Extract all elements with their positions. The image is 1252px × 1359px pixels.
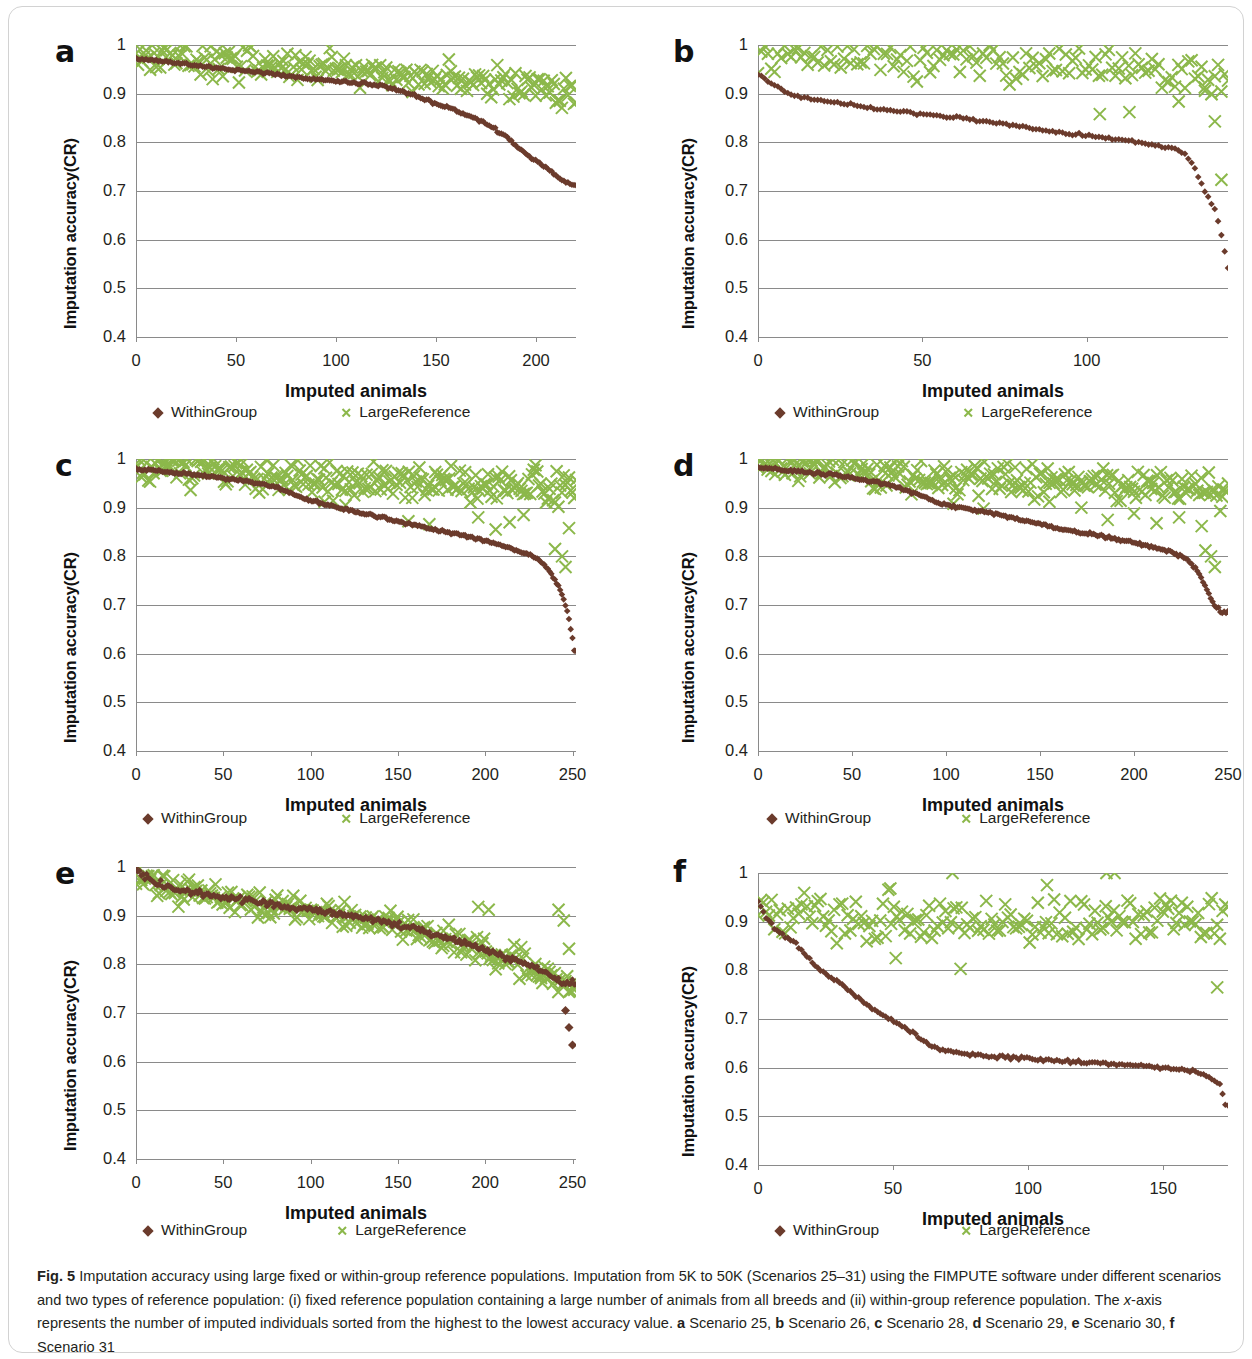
caption-panel-scenario-f: Scenario 31 [37,1339,115,1355]
y-tick-label: 0.7 [696,181,748,200]
y-tick-label: 0.6 [74,644,126,663]
panel-grid: aImputation accuracy(CR)0.40.50.60.70.80… [23,15,1245,1260]
legend-label-largereference: LargeReference [981,403,1092,421]
legend-item-withingroup: WithinGroup [765,809,871,827]
y-tick-label: 0.9 [696,84,748,103]
scatter-plot-canvas-c [136,459,576,757]
y-tick-label: 0.9 [696,912,748,931]
scatter-plot-canvas-f [758,873,1228,1171]
x-axis-label: Imputed animals [758,381,1228,402]
x-tick-label: 50 [863,1179,923,1198]
y-tick-label: 0.4 [74,1149,126,1168]
y-tick-label: 0.9 [74,906,126,925]
diamond-marker-icon [141,811,156,826]
x-tick-label: 150 [368,1173,428,1192]
caption-panel-scenario-c: Scenario 28, [882,1315,972,1331]
caption-panel-scenario-e: Scenario 30, [1080,1315,1170,1331]
y-tick-label: 1 [696,35,748,54]
legend: WithinGroupLargeReference [23,1221,625,1239]
caption-panel-ref-a: a [677,1315,685,1331]
x-tick-label: 50 [193,1173,253,1192]
caption-panel-ref-b: b [775,1315,784,1331]
legend-item-withingroup: WithinGroup [151,403,257,421]
legend: WithinGroupLargeReference [625,809,1245,827]
x-tick-label: 50 [193,765,253,784]
legend-item-largereference: LargeReference [959,809,1090,827]
diamond-marker-icon [141,1223,156,1238]
y-tick-label: 0.8 [74,954,126,973]
x-tick-label: 200 [506,351,566,370]
x-tick-label: 200 [455,1173,515,1192]
caption-body: Imputation accuracy using large fixed or… [37,1268,1221,1308]
x-tick-label: 0 [106,351,166,370]
x-tick-label: 100 [1057,351,1117,370]
y-tick-label: 1 [74,857,126,876]
x-tick-label: 250 [543,765,603,784]
legend-item-largereference: LargeReference [335,1221,466,1239]
legend-label-largereference: LargeReference [359,403,470,421]
legend: WithinGroupLargeReference [23,809,625,827]
y-tick-label: 0.7 [74,1003,126,1022]
y-tick-label: 0.4 [74,741,126,760]
legend: WithinGroupLargeReference [625,1221,1245,1239]
y-tick-label: 0.4 [74,327,126,346]
y-tick-label: 0.9 [74,84,126,103]
x-tick-label: 100 [306,351,366,370]
cross-marker-icon [961,405,976,420]
y-tick-label: 1 [696,863,748,882]
x-tick-label: 0 [728,765,788,784]
x-tick-label: 50 [822,765,882,784]
y-tick-label: 0.5 [74,278,126,297]
figure-frame: aImputation accuracy(CR)0.40.50.60.70.80… [8,6,1244,1353]
diamond-marker-icon [151,405,166,420]
x-tick-label: 250 [1198,765,1252,784]
y-tick-label: 0.6 [696,1058,748,1077]
y-tick-label: 0.8 [696,960,748,979]
panel-a: aImputation accuracy(CR)0.40.50.60.70.80… [23,15,625,439]
panel-letter-e: e [55,859,75,889]
y-tick-label: 0.6 [74,1052,126,1071]
x-tick-label: 50 [892,351,952,370]
panel-letter-b: b [673,37,694,67]
legend-label-largereference: LargeReference [355,1221,466,1239]
x-tick-label: 150 [1010,765,1070,784]
y-tick-label: 0.8 [74,546,126,565]
y-tick-label: 0.9 [696,498,748,517]
x-tick-label: 100 [281,765,341,784]
scatter-plot-canvas-d [758,459,1228,757]
y-tick-label: 0.5 [74,1100,126,1119]
legend-item-largereference: LargeReference [959,1221,1090,1239]
caption-panel-ref-e: e [1071,1315,1079,1331]
y-tick-label: 0.7 [74,181,126,200]
legend-label-largereference: LargeReference [979,809,1090,827]
legend-item-largereference: LargeReference [961,403,1092,421]
legend-label-withingroup: WithinGroup [161,809,247,827]
x-tick-label: 50 [206,351,266,370]
y-tick-label: 1 [74,35,126,54]
x-tick-label: 150 [1133,1179,1193,1198]
x-axis-label: Imputed animals [136,381,576,402]
figure-number: Fig. 5 [37,1268,75,1284]
legend-label-withingroup: WithinGroup [793,403,879,421]
diamond-marker-icon [765,811,780,826]
x-tick-label: 100 [998,1179,1058,1198]
legend-item-withingroup: WithinGroup [773,403,879,421]
x-tick-label: 150 [406,351,466,370]
cross-marker-icon [339,811,354,826]
y-tick-label: 0.6 [74,230,126,249]
x-tick-label: 0 [728,1179,788,1198]
y-tick-label: 0.5 [74,692,126,711]
y-tick-label: 0.8 [696,132,748,151]
y-tick-label: 0.9 [74,498,126,517]
cross-marker-icon [959,1223,974,1238]
diamond-marker-icon [773,405,788,420]
y-tick-label: 1 [74,449,126,468]
legend: WithinGroupLargeReference [625,403,1245,421]
x-tick-label: 150 [368,765,428,784]
cross-marker-icon [335,1223,350,1238]
caption-panel-ref-f: f [1170,1315,1175,1331]
legend: WithinGroupLargeReference [23,403,625,421]
cross-marker-icon [339,405,354,420]
caption-panel-ref-d: d [972,1315,981,1331]
y-tick-label: 0.8 [74,132,126,151]
